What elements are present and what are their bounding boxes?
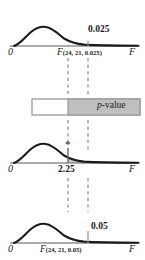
- panel-middle-graphics: [10, 144, 140, 163]
- upper-axis-label: F: [129, 47, 135, 57]
- dashed-connectors-top: [68, 58, 88, 94]
- lower-area-label: 0.05: [91, 222, 108, 232]
- middle-axis-label: F: [129, 164, 135, 174]
- upper-critical-label: F(24, 21, 0.025): [57, 48, 102, 58]
- panel-upper-graphics: [10, 27, 140, 46]
- p-value-label: p-value: [97, 101, 126, 111]
- middle-density-curve: [14, 144, 138, 163]
- panel-lower-graphics: [10, 224, 140, 243]
- upper-critical-subscript: (24, 21, 0.025): [63, 49, 102, 56]
- observed-statistic-marker: *: [65, 139, 71, 150]
- lower-axis-label: F: [129, 244, 135, 254]
- upper-origin-label: 0: [8, 47, 13, 57]
- lower-critical-subscript: (24, 21, 0.05): [46, 246, 82, 253]
- middle-origin-label: 0: [8, 164, 13, 174]
- upper-area-label: 0.025: [88, 25, 109, 35]
- lower-critical-label: F(24, 21, 0.05): [40, 245, 82, 255]
- figure-root: 0 0.025 F(24, 21, 0.025) F p-value * 0 2…: [0, 0, 145, 260]
- upper-density-curve: [14, 27, 138, 46]
- dashed-connectors-bottom: [68, 120, 88, 152]
- middle-tick-label: 2.25: [58, 165, 75, 175]
- figure-graphics: [0, 0, 145, 260]
- dashed-connectors-lower: [68, 178, 88, 212]
- p-value-label-rest: -value: [102, 100, 126, 110]
- lower-origin-label: 0: [8, 244, 13, 254]
- lower-density-curve: [14, 224, 138, 243]
